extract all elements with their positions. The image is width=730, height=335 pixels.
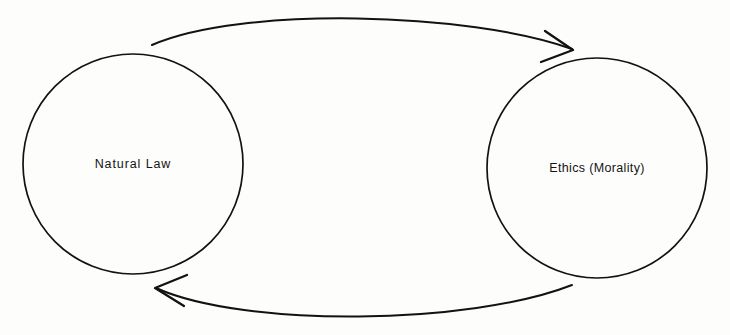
node-natural-law: Natural Law [23,54,243,274]
natural-law-label: Natural Law [95,157,172,171]
node-ethics-morality: Ethics (Morality) [487,58,707,278]
arrow-head-right-icon [541,31,573,62]
edge-natural-law-to-ethics [152,18,573,62]
edge-ethics-to-natural-law [155,275,572,317]
top-arc-path [152,18,572,49]
bottom-arc-path [156,285,572,317]
cycle-diagram: Natural Law Ethics (Morality) [0,0,730,335]
ethics-morality-label: Ethics (Morality) [549,161,645,175]
diagram-canvas: Natural Law Ethics (Morality) [0,0,730,335]
arrow-head-left-icon [155,275,187,306]
